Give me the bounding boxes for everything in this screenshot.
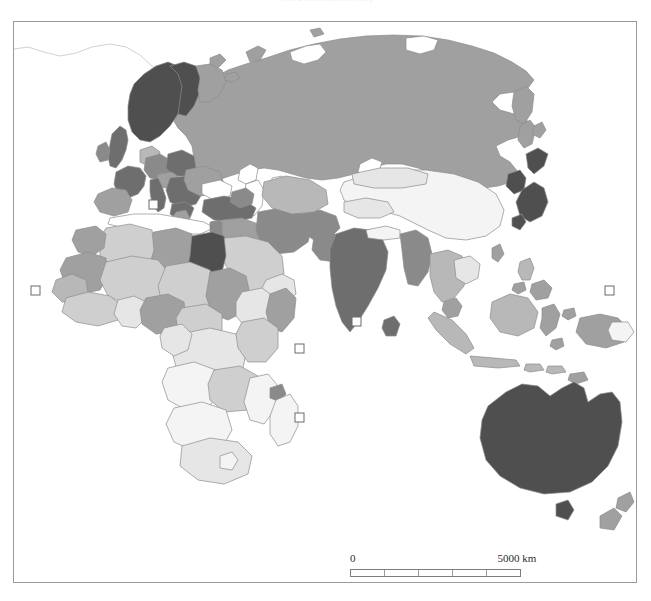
scale-bar-segment: [385, 570, 419, 576]
scale-bar-segment: [487, 570, 520, 576]
scale-bar-segment: [453, 570, 487, 576]
map-page: World distribution map .ln { stroke:#8c8…: [0, 0, 651, 601]
scale-bar-labels: 0 5000 km: [348, 552, 548, 567]
marker-indian-ocean-north[interactable]: [352, 317, 361, 326]
world-map-svg[interactable]: .ln { stroke:#8c8c8c; stroke-width:0.7; …: [14, 22, 636, 582]
marker-mediterranean[interactable]: [149, 200, 158, 209]
scale-bar-segment: [419, 570, 453, 576]
marker-gulf-of-guinea[interactable]: [295, 344, 304, 353]
figure-caption: World distribution map: [0, 0, 651, 3]
map-frame: .ln { stroke:#8c8c8c; stroke-width:0.7; …: [13, 21, 637, 583]
marker-atlantic-west-africa[interactable]: [31, 286, 40, 295]
scale-bar-segment: [351, 570, 385, 576]
scale-bar-track: [350, 569, 521, 577]
caption-strip: World distribution map: [0, 0, 651, 12]
marker-indian-ocean-south[interactable]: [295, 413, 304, 422]
scale-bar: 0 5000 km: [348, 552, 548, 584]
scale-max-label: 5000 km: [498, 552, 537, 564]
marker-pacific-east[interactable]: [605, 286, 614, 295]
scale-min-label: 0: [350, 552, 356, 564]
